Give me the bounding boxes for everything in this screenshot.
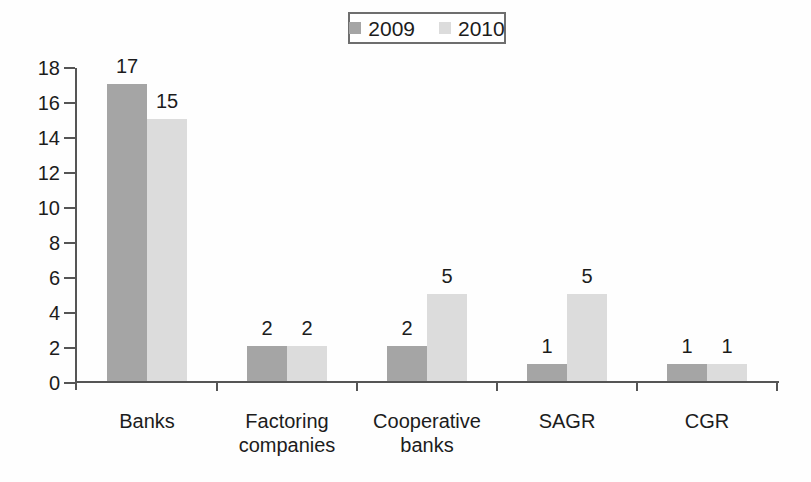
- y-axis-tick: [64, 137, 75, 139]
- bar-2010-banks: [147, 119, 187, 382]
- bar-2009-cooperative: [387, 346, 427, 381]
- bar-value-label: 5: [425, 265, 469, 287]
- legend-swatch-2009: [349, 22, 361, 34]
- bar-2009-banks: [107, 84, 147, 382]
- y-axis-tick: [64, 172, 75, 174]
- plot-area: 0246810121416181715Banks22Factoring comp…: [77, 68, 777, 383]
- y-axis-tick-label: 4: [6, 301, 60, 325]
- bar-2009-cgr: [667, 364, 707, 382]
- bar-2009-sagr: [527, 364, 567, 382]
- x-axis-category-label: Factoring companies: [217, 409, 357, 457]
- bar-value-label: 17: [105, 55, 149, 77]
- bar-value-label: 15: [145, 90, 189, 112]
- legend-item-2010: 2010: [439, 18, 505, 39]
- y-axis-tick: [64, 312, 75, 314]
- y-axis-tick-label: 0: [6, 371, 60, 395]
- legend: 20092010: [348, 12, 506, 44]
- x-axis-tick: [636, 383, 638, 391]
- y-axis-tick-label: 10: [6, 196, 60, 220]
- x-axis-tick: [216, 383, 218, 391]
- x-axis-tick: [496, 383, 498, 391]
- y-axis-tick-label: 16: [6, 91, 60, 115]
- y-axis-line: [75, 68, 77, 390]
- y-axis-tick-label: 2: [6, 336, 60, 360]
- bar-value-label: 2: [285, 317, 329, 339]
- y-axis-tick: [64, 347, 75, 349]
- y-axis-tick-label: 14: [6, 126, 60, 150]
- y-axis-tick-label: 18: [6, 56, 60, 80]
- bar-value-label: 2: [245, 317, 289, 339]
- y-axis-tick: [64, 67, 75, 69]
- bar-2010-factoring: [287, 346, 327, 381]
- bar-2010-cgr: [707, 364, 747, 382]
- x-axis-category-label: CGR: [637, 409, 777, 433]
- bar-chart: 20092010 0246810121416181715Banks22Facto…: [0, 0, 811, 482]
- bar-2010-cooperative: [427, 294, 467, 382]
- y-axis-tick: [64, 207, 75, 209]
- y-axis-tick-label: 12: [6, 161, 60, 185]
- bar-2009-factoring: [247, 346, 287, 381]
- legend-label: 2009: [368, 18, 415, 39]
- x-axis-category-label: Cooperative banks: [357, 409, 497, 457]
- legend-item-2009: 2009: [349, 18, 415, 39]
- y-axis-tick: [64, 102, 75, 104]
- y-axis-tick-label: 8: [6, 231, 60, 255]
- bar-value-label: 1: [705, 335, 749, 357]
- y-axis-tick: [64, 242, 75, 244]
- y-axis-tick: [64, 382, 75, 384]
- y-axis-tick: [64, 277, 75, 279]
- legend-label: 2010: [458, 18, 505, 39]
- y-axis-tick-label: 6: [6, 266, 60, 290]
- bar-2010-sagr: [567, 294, 607, 382]
- legend-swatch-2010: [439, 22, 451, 34]
- x-axis-line: [75, 381, 779, 383]
- bar-value-label: 5: [565, 265, 609, 287]
- x-axis-category-label: Banks: [77, 409, 217, 433]
- x-axis-tick: [776, 383, 778, 391]
- bar-value-label: 1: [665, 335, 709, 357]
- x-axis-category-label: SAGR: [497, 409, 637, 433]
- bar-value-label: 2: [385, 317, 429, 339]
- x-axis-tick: [356, 383, 358, 391]
- bar-value-label: 1: [525, 335, 569, 357]
